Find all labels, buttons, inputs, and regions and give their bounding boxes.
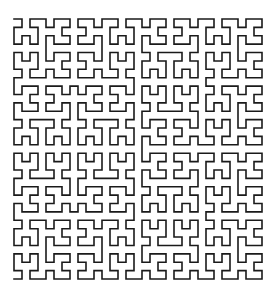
hilbert-curve-figure	[0, 0, 277, 295]
hilbert-curve-svg	[0, 0, 277, 295]
hilbert-curve-path	[14, 19, 262, 279]
